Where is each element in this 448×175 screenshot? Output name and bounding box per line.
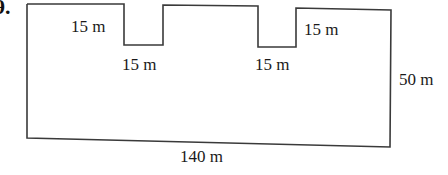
floor-plan-outline [0,0,448,175]
label-top-left-step: 15 m [71,18,105,35]
label-top-right-step: 15 m [304,21,338,38]
label-notch1-width: 15 m [122,56,156,73]
label-notch2-width: 15 m [255,56,289,73]
label-height: 50 m [399,71,433,88]
label-width: 140 m [180,148,223,165]
